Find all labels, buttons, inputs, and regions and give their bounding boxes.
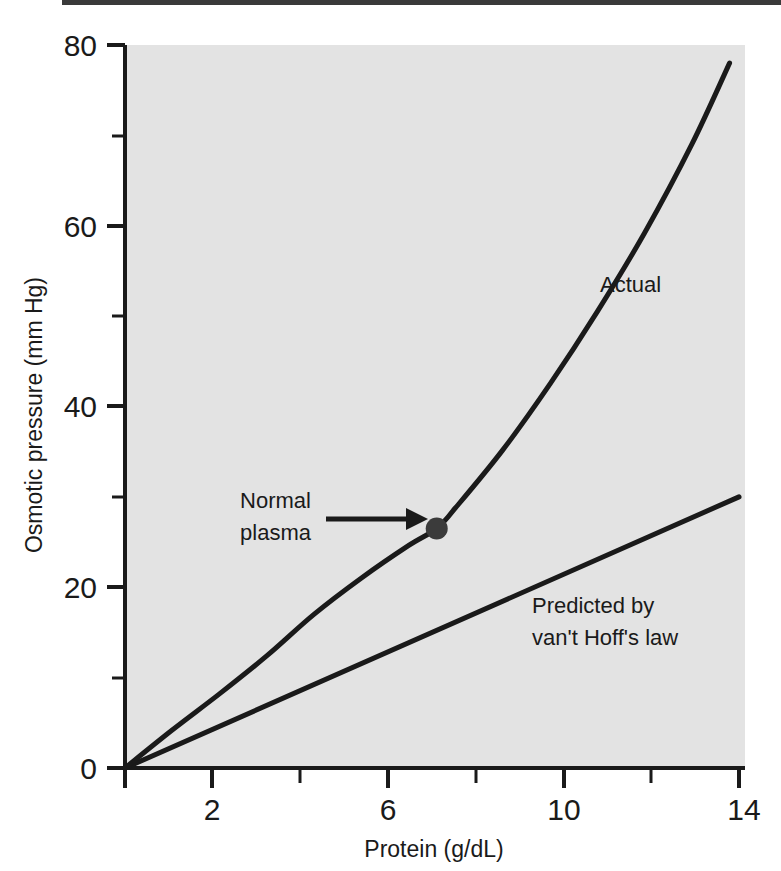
x-tick-label-10: 10 bbox=[547, 793, 580, 826]
y-axis-title: Osmotic pressure (mm Hg) bbox=[21, 277, 47, 553]
y-tick-label-80: 80 bbox=[64, 29, 97, 62]
y-tick-label-60: 60 bbox=[64, 210, 97, 243]
normal-plasma-label-line1: Normal bbox=[240, 488, 311, 513]
normal-plasma-marker bbox=[426, 518, 448, 540]
x-axis-major-ticks bbox=[125, 768, 739, 788]
y-tick-label-0: 0 bbox=[80, 752, 97, 785]
figure-page: 80 60 40 20 0 2 6 10 14 Osmotic pressure… bbox=[0, 0, 781, 871]
y-tick-label-20: 20 bbox=[64, 571, 97, 604]
y-axis-major-ticks bbox=[107, 45, 125, 768]
y-tick-label-40: 40 bbox=[64, 390, 97, 423]
x-tick-label-2: 2 bbox=[204, 793, 221, 826]
vant-hoff-label-line1: Predicted by bbox=[532, 593, 654, 618]
x-tick-label-14: 14 bbox=[727, 793, 760, 826]
x-tick-label-6: 6 bbox=[380, 793, 397, 826]
normal-plasma-label-line2: plasma bbox=[240, 520, 312, 545]
vant-hoff-label-line2: van't Hoff's law bbox=[532, 625, 678, 650]
x-axis-minor-ticks bbox=[300, 768, 651, 783]
osmotic-pressure-chart: 80 60 40 20 0 2 6 10 14 Osmotic pressure… bbox=[0, 0, 781, 871]
plot-area-background bbox=[125, 45, 745, 768]
actual-series-label: Actual bbox=[600, 272, 661, 297]
x-axis-title: Protein (g/dL) bbox=[364, 836, 503, 862]
